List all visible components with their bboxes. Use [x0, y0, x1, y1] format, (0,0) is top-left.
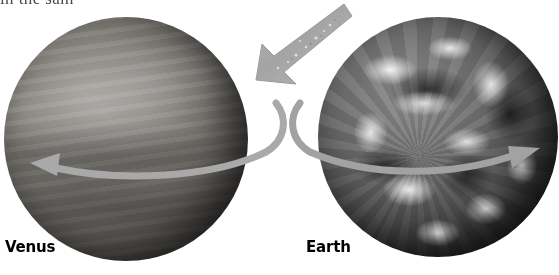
earth-label: Earth: [306, 238, 351, 256]
venus-label: Venus: [5, 238, 55, 256]
venus-planet-image: [4, 17, 248, 261]
caption-text: in the sam: [0, 0, 240, 10]
earth-planet-image: [318, 17, 558, 257]
figure-canvas: in the sam: [0, 0, 559, 275]
caption-strip: in the sam: [0, 0, 240, 10]
